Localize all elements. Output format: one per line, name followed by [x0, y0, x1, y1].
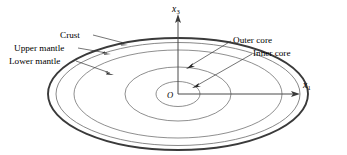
crust-leader-line	[93, 35, 124, 43]
outer-core-label: Outer core	[233, 36, 272, 45]
crust-label: Crust	[60, 31, 80, 40]
outer-core-leader-line	[190, 41, 231, 66]
x1-axis-label-base: x	[303, 80, 307, 90]
earth-structure-figure: Crust Upper mantle Lower mantle Outer co…	[0, 0, 347, 155]
x1-axis-label-subscript: 1	[308, 84, 311, 91]
figure-canvas	[0, 0, 347, 155]
x3-axis-label-subscript: 3	[177, 8, 180, 15]
origin-label: O	[167, 91, 173, 100]
lower-mantle-label: Lower mantle	[9, 57, 60, 66]
x1-axis-label: x1	[303, 81, 311, 91]
inner-core-leader-line	[196, 54, 252, 86]
x3-axis-label-base: x	[172, 4, 176, 14]
x3-axis-label: x3	[172, 5, 180, 15]
inner-core-label: Inner core	[253, 49, 291, 58]
upper-mantle-label: Upper mantle	[14, 44, 64, 53]
